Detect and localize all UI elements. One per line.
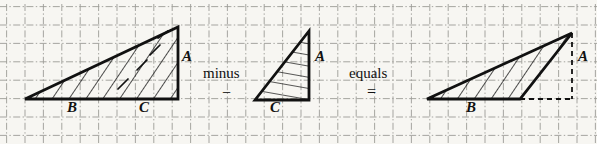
diagram-svg bbox=[0, 0, 597, 144]
diagram-canvas: A B C A C A B minus − equals = bbox=[0, 0, 597, 144]
label-middle-A: A bbox=[315, 49, 325, 64]
left-triangle-hatching bbox=[20, 20, 185, 110]
equals-word: equals bbox=[349, 66, 387, 81]
label-left-A: A bbox=[182, 49, 192, 64]
minus-symbol: − bbox=[222, 85, 231, 101]
label-right-A: A bbox=[578, 49, 588, 64]
minus-word: minus bbox=[203, 66, 240, 81]
left-figure-group bbox=[20, 20, 185, 110]
right-figure-group bbox=[420, 25, 580, 107]
equals-symbol: = bbox=[367, 84, 376, 100]
label-left-C: C bbox=[139, 100, 149, 115]
label-right-B: B bbox=[466, 100, 476, 115]
label-left-B: B bbox=[67, 100, 77, 115]
label-middle-C: C bbox=[270, 100, 280, 115]
